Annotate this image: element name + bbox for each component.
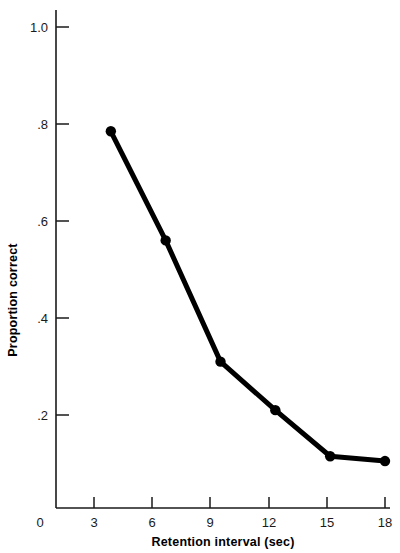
data-point [270, 405, 280, 415]
y-axis-tick-labels: 1.0 .8 .6 .4 .2 [30, 20, 48, 423]
x-axis-ticks [94, 497, 385, 508]
y-tick-label-1-0: 1.0 [30, 20, 48, 35]
y-tick-label-0-6: .6 [37, 214, 48, 229]
x-axis-tick-labels: 0 3 6 9 12 15 18 [36, 515, 392, 530]
y-tick-label-0-4: .4 [37, 311, 48, 326]
data-point [325, 451, 335, 461]
y-axis-ticks [56, 27, 69, 415]
x-tick-label-6: 6 [148, 515, 155, 530]
x-tick-label-18: 18 [378, 515, 392, 530]
data-point [380, 456, 390, 466]
data-point [106, 126, 116, 136]
data-point [160, 235, 170, 245]
chart-figure: 1.0 .8 .6 .4 .2 0 3 6 9 12 15 18 [0, 0, 400, 553]
data-series-markers [106, 126, 391, 466]
y-axis-title: Proportion correct [6, 243, 20, 357]
data-point [215, 356, 225, 366]
y-tick-label-0-2: .2 [37, 408, 48, 423]
x-tick-label-0: 0 [36, 515, 43, 530]
x-tick-label-15: 15 [320, 515, 334, 530]
x-tick-label-3: 3 [90, 515, 97, 530]
line-chart: 1.0 .8 .6 .4 .2 0 3 6 9 12 15 18 [0, 0, 400, 553]
y-tick-label-0-8: .8 [37, 117, 48, 132]
x-tick-label-9: 9 [206, 515, 213, 530]
x-tick-label-12: 12 [262, 515, 276, 530]
data-series-line [111, 131, 385, 461]
x-axis-title: Retention interval (sec) [151, 535, 294, 549]
